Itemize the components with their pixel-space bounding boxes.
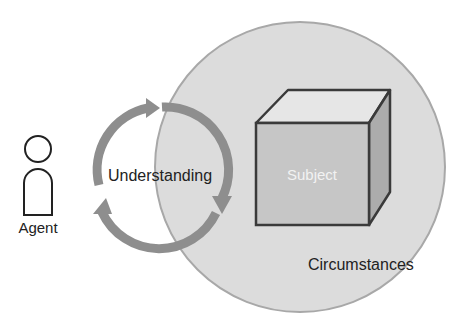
subject-label: Subject (287, 166, 338, 183)
circumstances-label: Circumstances (308, 256, 414, 273)
arrowhead-bottom-icon (93, 198, 112, 214)
arrowhead-top-icon (146, 98, 160, 118)
diagram-canvas: Subject Understanding Agent Circumstance… (0, 0, 464, 320)
agent-icon (24, 136, 52, 215)
agent-head (25, 136, 51, 162)
understanding-label: Understanding (108, 167, 212, 184)
subject-cube (256, 90, 390, 225)
agent-label: Agent (18, 219, 58, 236)
agent-body (24, 169, 52, 215)
